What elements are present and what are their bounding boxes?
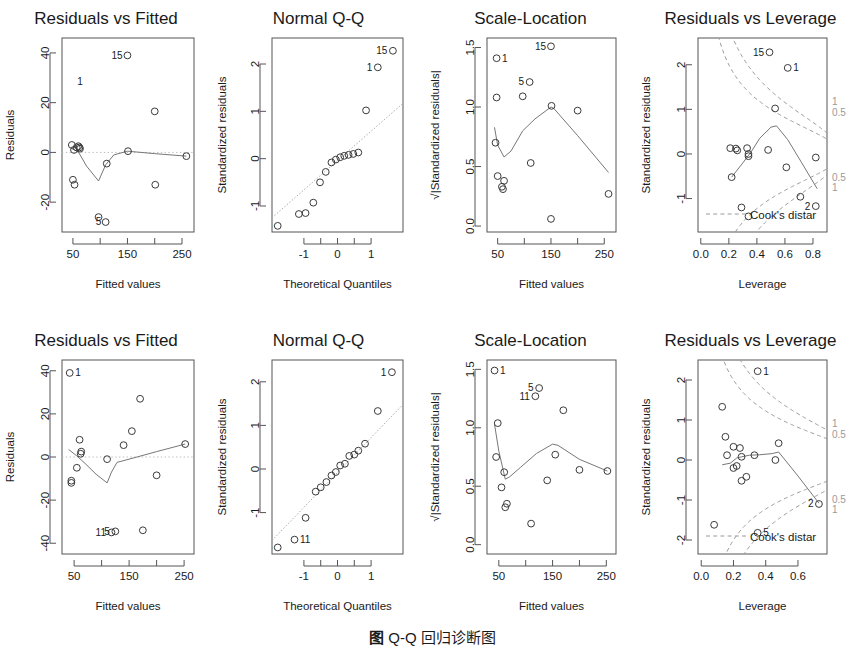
data-point bbox=[317, 179, 324, 186]
diagnostic-plot-figure: Residuals vs Fitted115550150250Fitted va… bbox=[0, 0, 865, 653]
x-axis-label: Fitted values bbox=[95, 278, 160, 290]
qq-reference-line bbox=[272, 404, 403, 540]
y-axis-tick-label: -40 bbox=[39, 535, 51, 552]
data-point bbox=[139, 527, 146, 534]
panel-title: Normal Q-Q bbox=[273, 9, 365, 28]
data-point bbox=[812, 154, 819, 161]
data-point bbox=[604, 468, 611, 475]
data-point bbox=[295, 211, 302, 218]
data-point bbox=[341, 460, 348, 467]
y-axis-tick-label: 0 bbox=[39, 454, 51, 460]
data-point bbox=[390, 47, 397, 54]
cooks-level-label: 0.5 bbox=[832, 172, 846, 183]
x-axis-tick-label: 250 bbox=[172, 248, 191, 260]
data-point bbox=[120, 442, 127, 449]
data-point bbox=[76, 436, 83, 443]
cooks-distance-contour bbox=[711, 169, 827, 314]
y-axis-tick-label: 2 bbox=[675, 62, 687, 68]
x-axis-tick-label: 50 bbox=[491, 248, 504, 260]
x-axis-tick-label: 150 bbox=[541, 248, 560, 260]
x-axis-tick-label: 1 bbox=[368, 570, 374, 582]
cooks-level-label: 1 bbox=[832, 418, 838, 429]
y-axis-tick-label: 0.5 bbox=[464, 159, 476, 175]
data-point bbox=[754, 368, 761, 375]
x-axis-tick-label: 1 bbox=[368, 248, 374, 260]
plot-frame bbox=[62, 38, 194, 232]
x-axis-label: Leverage bbox=[739, 600, 787, 612]
data-point bbox=[493, 55, 500, 62]
panel-title: Residuals vs Leverage bbox=[665, 9, 837, 28]
x-axis-tick-label: 250 bbox=[595, 248, 614, 260]
data-point bbox=[73, 464, 80, 471]
y-axis-tick-label: -20 bbox=[39, 492, 51, 509]
data-point bbox=[574, 107, 581, 114]
plot-area: 1512Cook's distar bbox=[706, 0, 827, 320]
data-point bbox=[772, 105, 779, 112]
y-axis-tick-label: -20 bbox=[39, 194, 51, 211]
cooks-level-label: 1 bbox=[832, 504, 838, 515]
y-axis-tick-label: 20 bbox=[39, 407, 51, 420]
data-point bbox=[332, 469, 339, 476]
y-axis-tick-label: 0 bbox=[39, 149, 51, 155]
cooks-distance-legend-label: Cook's distar bbox=[750, 209, 816, 221]
cooks-level-label: 0.5 bbox=[832, 107, 846, 118]
y-axis-tick-label: 0 bbox=[675, 457, 687, 463]
x-axis-tick-label: 50 bbox=[492, 570, 505, 582]
y-axis-label: Standardized residuals bbox=[216, 76, 228, 193]
data-point bbox=[374, 64, 381, 71]
x-axis-label: Fitted values bbox=[519, 278, 584, 290]
data-point bbox=[526, 79, 533, 86]
panel-top-residuals-vs-fitted: Residuals vs Fitted115550150250Fitted va… bbox=[0, 0, 212, 310]
cooks-level-label: 0.5 bbox=[832, 429, 846, 440]
data-point bbox=[302, 210, 309, 217]
data-point bbox=[722, 433, 729, 440]
panel-title: Residuals vs Fitted bbox=[34, 331, 178, 350]
data-point bbox=[322, 169, 329, 176]
x-axis-tick-label: 0.4 bbox=[749, 248, 766, 260]
plot-area: 5115 bbox=[267, 45, 403, 231]
y-axis-label: √|Standardized residuals| bbox=[429, 70, 441, 199]
y-axis-tick-label: -1 bbox=[249, 507, 261, 517]
data-point bbox=[493, 94, 500, 101]
plot-area: 1155 bbox=[62, 50, 194, 228]
x-axis-tick-label: 0 bbox=[334, 570, 340, 582]
data-point bbox=[527, 160, 534, 167]
y-axis-tick-label: 1 bbox=[675, 417, 687, 423]
plot-area: 1155 bbox=[492, 41, 612, 223]
data-point bbox=[519, 93, 526, 100]
y-axis-label: Standardized residuals bbox=[640, 398, 652, 515]
y-axis-tick-label: 2 bbox=[249, 379, 261, 385]
data-point bbox=[151, 108, 158, 115]
data-point bbox=[498, 484, 505, 491]
panel-bottom-normal-qq: Normal Q-Q5111-101Theoretical Quantiles-… bbox=[212, 322, 425, 632]
y-axis-tick-label: 1 bbox=[249, 108, 261, 114]
y-axis-tick-label: 1.0 bbox=[464, 99, 476, 115]
data-point bbox=[730, 443, 737, 450]
data-point bbox=[816, 501, 823, 508]
data-point bbox=[500, 186, 507, 193]
y-axis-tick-label: 2 bbox=[249, 61, 261, 67]
x-axis-tick-label: 150 bbox=[118, 248, 137, 260]
y-axis-label: Standardized residuals bbox=[216, 398, 228, 515]
point-label: 11 bbox=[519, 391, 530, 402]
point-label: 5 bbox=[96, 216, 102, 227]
data-point bbox=[491, 367, 498, 374]
data-point bbox=[536, 385, 543, 392]
panel-title: Scale-Location bbox=[474, 9, 586, 28]
point-label: 1 bbox=[500, 365, 506, 376]
caption-number: 图 bbox=[369, 629, 384, 646]
data-point bbox=[783, 164, 790, 171]
data-point bbox=[711, 521, 718, 528]
data-point bbox=[492, 139, 499, 146]
panel-bottom-scale-location: Scale-Location151150150250Fitted values0… bbox=[425, 322, 636, 632]
lowess-smoother-line bbox=[722, 452, 819, 503]
point-label: 5 bbox=[104, 526, 110, 537]
y-axis-tick-label: 40 bbox=[39, 47, 51, 60]
panel-bottom-residuals-vs-leverage: Residuals vs Leverage125Cook's distar10.… bbox=[636, 322, 865, 632]
data-point bbox=[153, 472, 160, 479]
data-point bbox=[494, 420, 501, 427]
data-point bbox=[291, 536, 298, 543]
data-point bbox=[66, 370, 73, 377]
cooks-level-label: 1 bbox=[832, 96, 838, 107]
point-label: 1 bbox=[381, 367, 387, 378]
